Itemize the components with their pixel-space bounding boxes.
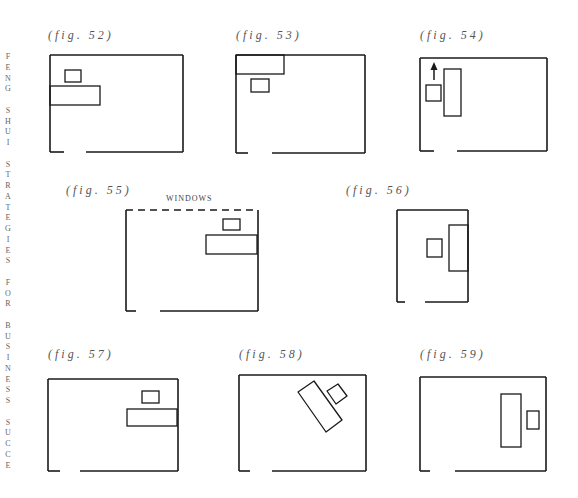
desk-shape <box>206 235 257 254</box>
chair-shape <box>527 411 539 429</box>
chair-shape <box>142 391 159 403</box>
chair-shape <box>251 79 269 92</box>
chair-shape <box>223 219 240 230</box>
floor-plan-58 <box>239 375 366 471</box>
floor-plan-59 <box>420 377 546 471</box>
chair-shape <box>65 70 81 82</box>
desk-shape <box>444 69 461 116</box>
floor-plan-56 <box>397 210 468 302</box>
desk-shape <box>449 225 468 271</box>
arrow-head-icon <box>431 62 438 70</box>
desk-shape <box>50 86 100 105</box>
floor-plan-55 <box>126 210 258 311</box>
desk-shape <box>298 381 342 432</box>
chair-shape <box>426 85 441 101</box>
floor-plan-52 <box>50 55 183 152</box>
desk-shape <box>501 394 521 447</box>
desk-shape <box>236 55 284 74</box>
desk-shape <box>127 409 177 426</box>
floor-plan-57 <box>48 379 178 471</box>
floor-plan-54 <box>420 58 547 151</box>
chair-shape <box>427 239 442 257</box>
floor-plan-diagrams <box>0 0 578 498</box>
floor-plan-53 <box>236 55 365 153</box>
chair-shape <box>327 384 347 404</box>
